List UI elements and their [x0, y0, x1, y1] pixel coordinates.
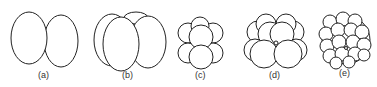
cleavage-diagram [0, 0, 377, 87]
label-a: (a) [38, 70, 49, 80]
label-b: (b) [122, 70, 133, 80]
panel-b-four-cell [94, 12, 166, 71]
panel-a-two-cell [11, 12, 78, 67]
label-c: (c) [195, 70, 206, 80]
label-e: (e) [339, 68, 350, 78]
panel-c-eight-cell [178, 17, 223, 69]
panel-e-morula [319, 12, 371, 69]
label-d: (d) [269, 70, 280, 80]
panel-d-sixteen-cell [244, 14, 307, 68]
